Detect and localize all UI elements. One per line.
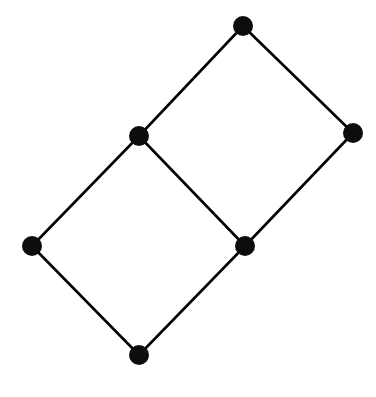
graph-vertex-bottom <box>129 345 149 365</box>
graph-canvas <box>0 0 376 397</box>
graph-vertex-upper_mid <box>129 126 149 146</box>
graph-vertex-center <box>235 236 255 256</box>
graph-vertex-right <box>343 123 363 143</box>
figure-background <box>0 0 376 397</box>
graph-vertex-top <box>233 16 253 36</box>
graph-vertex-left <box>22 236 42 256</box>
graph-figure <box>0 0 376 397</box>
